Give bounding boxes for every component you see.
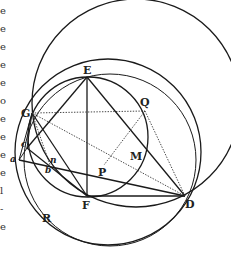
- margin-fragment: e: [0, 167, 6, 178]
- margin-fragment: -: [0, 203, 3, 214]
- margin-fragment: e: [0, 41, 6, 52]
- margin-fragment: o: [0, 95, 6, 106]
- margin-fragment: e: [0, 5, 6, 16]
- label-r: R: [42, 212, 52, 225]
- label-p: P: [98, 166, 106, 179]
- label-e: E: [83, 64, 91, 77]
- margin-fragment: e: [0, 131, 6, 142]
- margin-fragment: e: [0, 59, 6, 70]
- label-c: c: [21, 139, 27, 149]
- margin-fragment: e: [0, 113, 6, 124]
- margin-text-fragments: e e e e e o e e e e l - e: [0, 5, 6, 232]
- label-f: F: [82, 199, 90, 212]
- label-a: a: [10, 154, 16, 164]
- geometry-figure: e e e e e o e e e e l - e E G Q P M D F …: [0, 0, 231, 253]
- line-gf: [32, 113, 87, 196]
- margin-fragment: e: [0, 221, 6, 232]
- label-d: D: [185, 198, 195, 211]
- dotted-gq: [32, 111, 145, 113]
- margin-fragment: l: [0, 185, 3, 196]
- dotted-qd: [145, 111, 185, 196]
- label-n: n: [50, 155, 57, 165]
- margin-fragment: e: [0, 77, 6, 88]
- circle-m: [28, 77, 148, 197]
- label-m: M: [130, 150, 142, 163]
- label-b: b: [45, 165, 51, 175]
- margin-fragment: e: [0, 149, 6, 160]
- label-q: Q: [140, 96, 150, 109]
- margin-fragment: e: [0, 23, 6, 34]
- label-g: G: [21, 107, 30, 120]
